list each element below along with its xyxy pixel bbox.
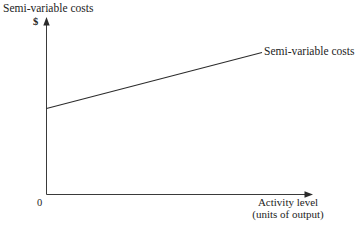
- plot-area: [0, 0, 360, 226]
- semi-variable-cost-line: [47, 53, 263, 109]
- series-label: Semi-variable costs: [264, 46, 354, 58]
- figure-canvas: Semi-variable costs $ 0 Semi-variable co…: [0, 0, 360, 226]
- x-axis-label: Activity level (units of output): [228, 197, 348, 220]
- x-axis-label-line1: Activity level: [258, 196, 318, 208]
- origin-label: 0: [37, 198, 42, 209]
- y-axis-arrowhead-icon: [43, 17, 49, 26]
- x-axis-label-line2: (units of output): [228, 209, 348, 220]
